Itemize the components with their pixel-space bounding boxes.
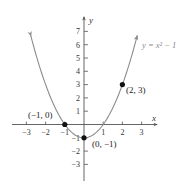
y-tick-label: 6 [76, 41, 80, 50]
y-tick-label: 4 [76, 67, 80, 76]
point-label-0-neg1: (0, −1) [92, 139, 117, 149]
parabola-plot: −3 −2 −1 1 2 3 7 6 5 4 3 2 1 −1 −2 −3 x … [0, 0, 184, 186]
y-axis-label: y [88, 15, 93, 25]
x-tick-label: 2 [120, 128, 124, 137]
equation-label: y = x² − 1 [141, 40, 176, 50]
point-2-3 [120, 82, 125, 87]
x-axis-label: x [151, 113, 156, 123]
y-tick-label: −3 [71, 160, 80, 169]
x-tick-label: 3 [140, 128, 144, 137]
y-tick-label: 3 [76, 80, 80, 89]
x-tick-label: −2 [41, 128, 50, 137]
y-tick-label: −2 [71, 147, 80, 156]
y-tick-label: 5 [76, 54, 80, 63]
point-neg1-0 [62, 122, 67, 127]
point-label-2-3: (2, 3) [126, 85, 146, 95]
y-tick-label: 2 [76, 94, 80, 103]
y-tick-label: 7 [76, 27, 80, 36]
point-0-neg1 [81, 135, 86, 140]
x-tick-label: −3 [22, 128, 31, 137]
x-tick-label: −1 [61, 128, 70, 137]
x-tick-label: 1 [101, 128, 105, 137]
point-label-neg1-0: (−1, 0) [28, 110, 53, 120]
y-tick-label: 1 [76, 107, 80, 116]
y-ticks [84, 31, 88, 164]
